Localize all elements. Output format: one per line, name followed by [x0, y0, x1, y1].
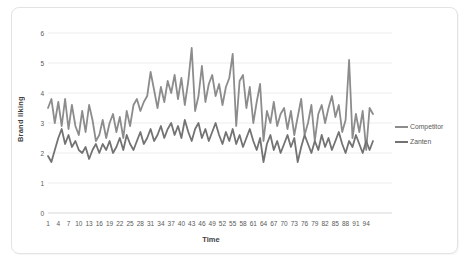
x-tick-label-10: 10 — [75, 220, 83, 227]
y-tick-label-6: 6 — [40, 30, 44, 37]
x-tick-label-85: 85 — [332, 220, 340, 227]
x-tick-label-70: 70 — [280, 220, 288, 227]
y-tick-label-4: 4 — [40, 90, 44, 97]
x-tick-label-55: 55 — [229, 220, 237, 227]
y-tick-label-1: 1 — [40, 180, 44, 187]
y-tick-label-3: 3 — [40, 120, 44, 127]
x-tick-label-73: 73 — [291, 220, 299, 227]
x-tick-label-19: 19 — [106, 220, 114, 227]
y-axis-title: Brand liking — [16, 88, 29, 150]
x-tick-label-22: 22 — [116, 220, 124, 227]
y-tick-label-2: 2 — [40, 150, 44, 157]
x-tick-label-4: 4 — [56, 220, 60, 227]
y-tick-label-5: 5 — [40, 60, 44, 67]
x-tick-label-67: 67 — [270, 220, 278, 227]
zanten-line-swatch — [395, 141, 408, 143]
chart-figure: 0123456147101316192225283134374043464952… — [0, 0, 467, 270]
x-tick-label-31: 31 — [147, 220, 155, 227]
x-tick-label-28: 28 — [137, 220, 145, 227]
x-tick-label-49: 49 — [209, 220, 217, 227]
x-tick-label-64: 64 — [260, 220, 268, 227]
x-axis-title: Time — [48, 235, 374, 244]
x-tick-label-34: 34 — [157, 220, 165, 227]
competitor-line-swatch — [395, 126, 408, 128]
x-tick-label-43: 43 — [188, 220, 196, 227]
x-tick-label-25: 25 — [126, 220, 134, 227]
x-tick-label-13: 13 — [85, 220, 93, 227]
x-tick-label-52: 52 — [219, 220, 227, 227]
x-tick-label-37: 37 — [168, 220, 176, 227]
x-tick-label-79: 79 — [311, 220, 319, 227]
x-tick-label-82: 82 — [321, 220, 329, 227]
x-tick-label-76: 76 — [301, 220, 309, 227]
y-tick-label-0: 0 — [40, 210, 44, 217]
x-tick-label-91: 91 — [352, 220, 360, 227]
x-tick-label-46: 46 — [198, 220, 206, 227]
x-tick-label-94: 94 — [363, 220, 371, 227]
x-tick-label-16: 16 — [96, 220, 104, 227]
legend-label-zanten: Zanten — [410, 138, 431, 145]
x-tick-label-58: 58 — [239, 220, 247, 227]
legend-item-competitor[interactable]: Competitor — [395, 121, 443, 132]
x-tick-label-1: 1 — [46, 220, 50, 227]
legend-label-competitor: Competitor — [410, 123, 443, 130]
x-tick-label-7: 7 — [67, 220, 71, 227]
x-tick-label-88: 88 — [342, 220, 350, 227]
x-tick-label-61: 61 — [250, 220, 258, 227]
legend: Competitor Zanten — [395, 121, 443, 147]
legend-item-zanten[interactable]: Zanten — [395, 136, 443, 147]
x-tick-label-40: 40 — [178, 220, 186, 227]
